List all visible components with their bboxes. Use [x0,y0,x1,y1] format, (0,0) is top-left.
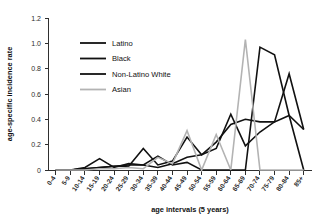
y-tick-label: 0 [37,167,41,174]
chart-figure: 00.20.40.60.81.01.2 age-specific inciden… [0,0,320,219]
y-tick-label: 0.2 [31,141,41,148]
legend-label-asian: Asian [112,85,131,94]
legend-label-non-latino-white: Non-Latino White [112,70,171,79]
y-axis-title: age-specific incidence rate [5,47,14,141]
incidence-rate-line-chart: 00.20.40.60.81.01.2 age-specific inciden… [0,0,320,219]
y-tick-label: 0.8 [31,65,41,72]
y-tick-label: 0.6 [31,91,41,98]
legend-label-black: Black [112,54,131,63]
y-tick-label: 1.2 [31,15,41,22]
legend-label-latino: Latino [112,39,133,48]
x-axis-title: age intervals (5 years) [151,205,229,214]
y-tick-label: 0.4 [31,116,41,123]
y-tick-label: 1.0 [31,40,41,47]
